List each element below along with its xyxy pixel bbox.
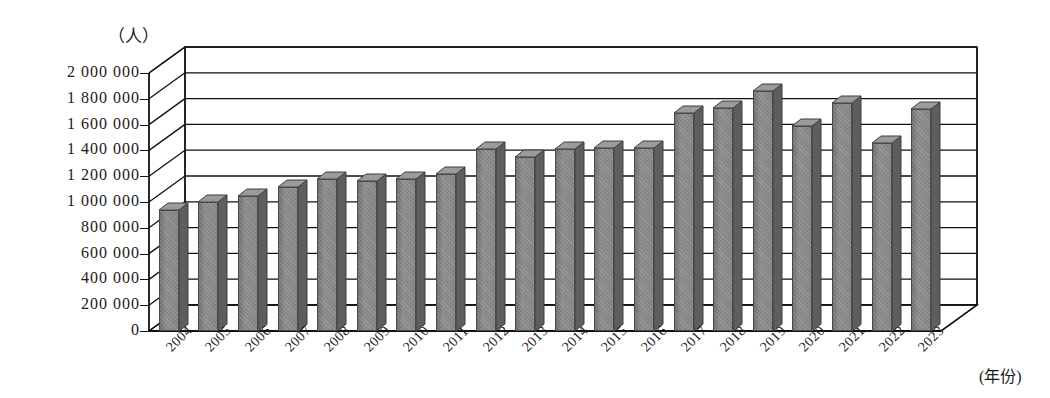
x-axis-label: (年份) — [979, 363, 1022, 387]
bar — [792, 100, 812, 331]
bar-front-face — [396, 179, 416, 331]
bar-front-face — [278, 187, 298, 331]
bar — [555, 123, 575, 331]
y-axis-tick-mark — [140, 279, 149, 280]
bar — [436, 148, 456, 331]
bar — [872, 117, 892, 331]
chart-canvas: （人） 2 000 0001 800 0001 600 0001 400 000… — [0, 0, 1050, 398]
bar — [753, 65, 773, 331]
bar — [832, 77, 852, 331]
bar — [634, 122, 654, 331]
y-axis-tick-mark — [140, 305, 149, 306]
bar-front-face — [436, 174, 456, 331]
y-axis-tick-mark — [140, 202, 149, 203]
bar-front-face — [515, 157, 535, 331]
bar-front-face — [753, 91, 773, 331]
bar-front-face — [317, 179, 337, 331]
bar — [317, 153, 337, 331]
bar — [594, 122, 614, 331]
bar — [911, 83, 931, 331]
bar — [396, 153, 416, 331]
y-axis-tick-mark — [140, 73, 149, 74]
bar — [515, 131, 535, 331]
bar — [357, 155, 377, 331]
y-axis-tick-mark — [140, 125, 149, 126]
bar-front-face — [476, 149, 496, 331]
bar — [476, 123, 496, 331]
bar-front-face — [634, 148, 654, 331]
bar-front-face — [357, 181, 377, 331]
bar — [198, 176, 218, 331]
bar-front-face — [674, 113, 694, 331]
bar — [674, 87, 694, 331]
bar-front-face — [198, 202, 218, 331]
bar-front-face — [832, 103, 852, 331]
y-axis-tick-mark — [140, 176, 149, 177]
bar-front-face — [238, 196, 258, 331]
y-axis-tick-mark — [140, 228, 149, 229]
bar — [159, 184, 179, 331]
bar-front-face — [872, 143, 892, 331]
bar — [238, 170, 258, 331]
y-axis-tick-mark — [140, 254, 149, 255]
y-axis-tick-mark — [140, 331, 149, 332]
y-axis-tick-mark — [140, 99, 149, 100]
bar-front-face — [713, 108, 733, 331]
bar-front-face — [911, 109, 931, 331]
bar-front-face — [555, 149, 575, 331]
y-axis-tick-mark — [140, 150, 149, 151]
bar — [713, 82, 733, 331]
bar-front-face — [594, 148, 614, 331]
bar-front-face — [792, 126, 812, 331]
bar — [278, 161, 298, 331]
bar-front-face — [159, 210, 179, 331]
